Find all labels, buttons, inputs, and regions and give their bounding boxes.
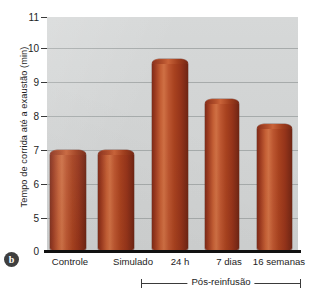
bar-controle bbox=[50, 150, 86, 250]
x-tick-label-24h: 24 h bbox=[154, 256, 206, 267]
annotation-bracket-pos-reinfusao: Pós-reinfusão bbox=[141, 278, 301, 290]
bar-cap bbox=[205, 99, 239, 104]
x-tick-label-16-semanas: 16 semanas bbox=[248, 256, 310, 267]
y-tick-label-8: 8 bbox=[5, 111, 39, 122]
x-axis-baseline bbox=[44, 250, 301, 253]
bar-simulado bbox=[98, 150, 134, 250]
y-tick-label-10: 10 bbox=[5, 43, 39, 54]
bar-cap bbox=[50, 150, 86, 155]
y-tick-label-7: 7 bbox=[5, 145, 39, 156]
y-tick-label-0: 0 bbox=[5, 246, 39, 257]
gridline-10 bbox=[47, 48, 298, 49]
bar-cap bbox=[257, 124, 292, 129]
bar-cap bbox=[152, 59, 188, 64]
figure-panel-b: b Tempo de corrida até a exaustão (min) … bbox=[0, 0, 312, 294]
y-tick-label-5: 5 bbox=[5, 213, 39, 224]
bracket-tick-left bbox=[141, 279, 142, 288]
y-tick-label-9: 9 bbox=[5, 77, 39, 88]
bracket-tick-right bbox=[300, 279, 301, 288]
bar-16-semanas bbox=[257, 124, 292, 250]
y-tick-label-11: 11 bbox=[5, 12, 39, 23]
bar-7-dias bbox=[205, 99, 239, 250]
plot-area bbox=[47, 17, 298, 250]
bar-24h bbox=[152, 59, 188, 250]
x-tick-label-controle: Controle bbox=[33, 256, 107, 267]
y-tick-label-6: 6 bbox=[5, 179, 39, 190]
bar-cap bbox=[98, 150, 134, 155]
bracket-label: Pós-reinfusão bbox=[187, 276, 254, 287]
